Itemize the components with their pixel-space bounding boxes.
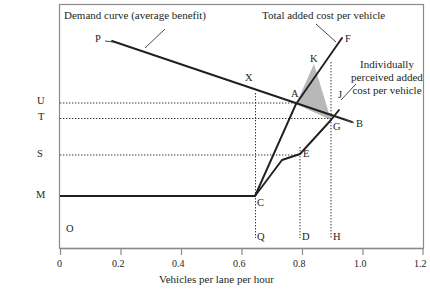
annotation-demand-curve: Demand curve (average benefit) bbox=[64, 9, 206, 21]
point-label-P: P bbox=[95, 33, 101, 45]
point-label-H: H bbox=[333, 231, 341, 243]
point-label-T: T bbox=[38, 111, 44, 123]
point-label-E: E bbox=[303, 148, 309, 160]
x-tick-label-2: 0.4 bbox=[172, 258, 185, 269]
x-tick-label-3: 0.6 bbox=[233, 258, 246, 269]
point-label-J: J bbox=[338, 89, 342, 101]
leader-total-cost bbox=[316, 24, 336, 42]
x-tick-label-4: 0.8 bbox=[293, 258, 306, 269]
point-label-D: D bbox=[302, 231, 310, 243]
point-label-O: O bbox=[66, 223, 74, 235]
economics-congestion-chart bbox=[0, 0, 430, 292]
point-label-K: K bbox=[310, 53, 318, 65]
leader-demand-curve bbox=[145, 29, 165, 48]
annotation-perceived-added-cost: Individually perceived added cost per ve… bbox=[347, 58, 427, 96]
point-label-G: G bbox=[333, 121, 341, 133]
x-tick-label-0: 0 bbox=[57, 258, 62, 269]
point-label-F: F bbox=[345, 33, 351, 45]
point-label-X: X bbox=[245, 72, 253, 84]
x-axis-title: Vehicles per lane per hour bbox=[159, 273, 274, 285]
point-label-U: U bbox=[37, 95, 45, 107]
point-label-M: M bbox=[36, 189, 45, 201]
x-tick-label-6: 1.2 bbox=[414, 258, 427, 269]
point-label-C: C bbox=[257, 197, 264, 209]
point-label-Q: Q bbox=[257, 231, 265, 243]
point-label-B: B bbox=[356, 118, 363, 130]
annotation-total-added-cost: Total added cost per vehicle bbox=[262, 9, 385, 21]
x-tick-label-1: 0.2 bbox=[112, 258, 125, 269]
point-label-S: S bbox=[37, 148, 43, 160]
figure-container: Demand curve (average benefit) Total add… bbox=[0, 0, 430, 292]
x-tick-label-5: 1.0 bbox=[354, 258, 367, 269]
point-label-A: A bbox=[291, 88, 299, 100]
shaded-welfare-loss-triangle bbox=[296, 64, 331, 120]
perceived-added-cost-curve bbox=[255, 110, 339, 196]
